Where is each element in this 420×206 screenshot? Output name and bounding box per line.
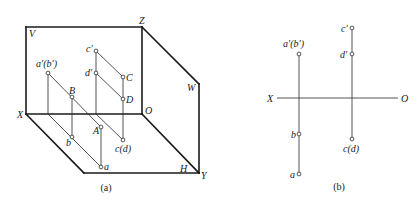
point-c-d [121,138,125,142]
point-D [121,97,125,101]
label-X: X [16,109,24,120]
figure-b-labels: XOa′(b′)c′d′bac(d) [266,23,408,180]
label-V: V [29,28,37,39]
figure-a-labels: VZWXOHYa′(b′)BAbac′d′CDc(d) [16,15,208,181]
ab-line-horizontal-projection [48,114,101,167]
projection-diagram-svg: VZWXOHYa′(b′)BAbac′d′CDc(d) (a) XOa′(b′)… [0,0,420,206]
label-Y: Y [201,170,208,181]
point-C [121,75,125,79]
label-b: b [291,129,296,140]
point-d-prime [94,71,98,75]
label-a: a [290,169,295,180]
label-a: a [104,161,109,172]
figure-a-frame [26,27,199,173]
label-X: X [266,93,274,104]
h-plane-left [26,114,84,173]
label-b: b [66,137,71,148]
label-B: B [69,85,75,96]
label-H: H [179,163,188,174]
point-c-prime [94,49,98,53]
label-D: D [125,94,134,105]
d-prime-d-line [96,73,123,99]
projection-figure: VZWXOHYa′(b′)BAbac′d′CDc(d) (a) XOa′(b′)… [0,0,420,206]
figure-b-caption: (b) [333,181,345,193]
point-c-d [350,137,354,141]
point-c-prime [350,26,354,30]
label-a-prime-b-prime: a′(b′) [283,38,305,50]
label-A: A [92,125,100,136]
w-plane-top [142,27,199,84]
figure-a-three-plane-projection: VZWXOHYa′(b′)BAbac′d′CDc(d) (a) [16,15,208,194]
figure-b-two-view-projection: XOa′(b′)c′d′bac(d) (b) [266,23,408,193]
label-c-d: c(d) [115,143,132,155]
label-W: W [187,82,197,93]
point-a [99,165,103,169]
label-d-prime: d′ [340,49,348,60]
point-A [99,125,103,129]
label-c-prime: c′ [86,43,93,54]
point-d-prime [350,52,354,56]
point-a-prime-b-prime [297,52,301,56]
point-a [297,172,301,176]
label-C: C [126,72,133,83]
point-b [297,132,301,136]
c-prime-c-line [96,51,123,77]
point-a-prime-b-prime [46,71,50,75]
ab-line-space [48,73,101,127]
figure-a-caption: (a) [100,182,111,194]
y-axis [142,114,199,173]
label-c-d: c(d) [343,143,360,155]
label-c-prime: c′ [341,23,348,34]
label-O: O [401,93,408,104]
label-O: O [145,105,152,116]
label-Z: Z [139,15,145,26]
label-d-prime: d′ [85,67,93,78]
label-a-prime-b-prime: a′(b′) [36,58,58,70]
